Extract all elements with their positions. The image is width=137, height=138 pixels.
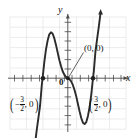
- coordinate-plane-svg: [0, 0, 137, 138]
- left-comma-zero: , 0: [25, 99, 34, 109]
- y-axis-label: y: [58, 5, 62, 15]
- left-paren-open: (: [10, 96, 14, 113]
- x-axis-label: x: [126, 73, 130, 83]
- point-right-intercept: [91, 76, 95, 80]
- left-intercept-label: (−32, 0): [9, 96, 39, 113]
- right-intercept-label: (32, 0): [88, 96, 113, 113]
- right-paren-close: ): [108, 96, 112, 113]
- curve-arrow-up: [98, 9, 103, 15]
- point-origin: [66, 76, 70, 80]
- right-comma-zero: , 0: [98, 99, 107, 109]
- origin-point-label: (0, 0): [84, 44, 104, 53]
- origin-label: 0: [59, 78, 64, 87]
- origin-leader-line: [68, 53, 83, 79]
- point-left-intercept: [41, 76, 45, 80]
- left-paren-close: ): [35, 96, 39, 113]
- graph-figure: y x 0 (0, 0) (−32, 0) (32, 0): [0, 0, 137, 138]
- right-paren-open: (: [89, 96, 93, 113]
